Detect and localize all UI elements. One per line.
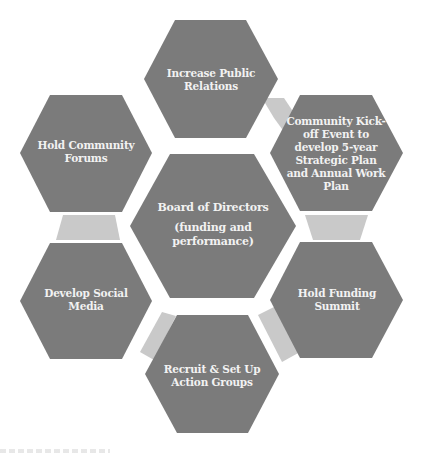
label-line: Summit bbox=[314, 300, 359, 313]
center-subtitle-line2: performance) bbox=[172, 235, 254, 249]
connector-top-right-to-bottom-right bbox=[305, 215, 368, 240]
label-line: Community Kick- bbox=[286, 115, 385, 128]
label-line: Forums bbox=[65, 152, 108, 165]
label-line: Plan bbox=[323, 180, 349, 193]
center-title: Board of Directors bbox=[158, 201, 269, 215]
label-line: Develop Social bbox=[44, 287, 128, 300]
label-line: Hold Community bbox=[38, 139, 135, 152]
center-label: Board of Directors (funding and performa… bbox=[140, 190, 286, 260]
label-bottom: Recruit & Set Up Action Groups bbox=[150, 358, 274, 394]
label-top-right: Community Kick- off Event to develop 5-y… bbox=[274, 112, 398, 196]
clipped-caption bbox=[0, 449, 110, 453]
label-line: off Event to bbox=[303, 128, 369, 141]
label-bottom-right: Hold Funding Summit bbox=[276, 280, 398, 320]
label-line: Hold Funding bbox=[298, 287, 376, 300]
label-line: Relations bbox=[184, 80, 238, 93]
label-line: develop 5-year bbox=[295, 141, 378, 154]
label-bottom-left: Develop Social Media bbox=[26, 282, 146, 318]
label-line: Recruit & Set Up bbox=[164, 363, 261, 376]
center-subtitle-line1: (funding and bbox=[174, 221, 252, 235]
connector-bottom-left-to-top-left bbox=[56, 215, 120, 240]
label-top: Increase Public Relations bbox=[150, 60, 272, 100]
label-line: Media bbox=[68, 300, 103, 313]
label-top-left: Hold Community Forums bbox=[26, 134, 146, 170]
label-line: Action Groups bbox=[171, 376, 252, 389]
label-line: Strategic Plan bbox=[295, 154, 376, 167]
label-line: Increase Public bbox=[167, 67, 255, 80]
label-line: and Annual Work bbox=[287, 167, 386, 180]
